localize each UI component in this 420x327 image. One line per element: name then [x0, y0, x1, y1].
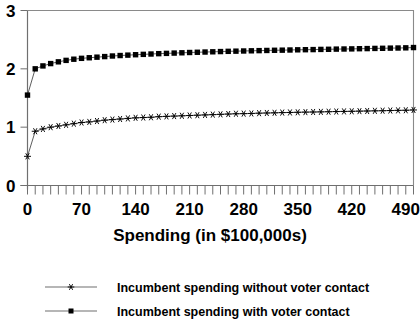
y-axis-tick-label: 2	[6, 60, 15, 79]
data-point-marker	[218, 49, 223, 54]
data-point-marker	[171, 50, 176, 55]
line-chart: 0123 070140210280350420490 Spending (in …	[0, 0, 420, 327]
data-point-marker	[110, 53, 115, 58]
data-point-marker	[303, 47, 308, 52]
data-point-marker	[334, 46, 339, 51]
data-point-marker	[156, 51, 161, 56]
data-point-marker	[125, 52, 130, 57]
data-point-marker	[63, 58, 68, 63]
data-point-marker	[364, 46, 369, 51]
data-point-marker	[33, 66, 38, 71]
data-point-marker	[388, 45, 393, 50]
data-point-marker	[69, 309, 74, 314]
x-axis-tick-label: 210	[175, 200, 203, 219]
data-point-marker	[25, 92, 30, 97]
y-axis-tick-label: 3	[6, 2, 15, 21]
data-point-marker	[272, 48, 277, 53]
chart-figure: 0123 070140210280350420490 Spending (in …	[0, 0, 420, 327]
data-point-marker	[56, 59, 61, 64]
data-point-marker	[71, 57, 76, 62]
data-point-marker	[318, 47, 323, 52]
data-point-marker	[380, 46, 385, 51]
data-point-marker	[133, 52, 138, 57]
data-point-marker	[280, 47, 285, 52]
x-axis-tick-label: 0	[23, 200, 32, 219]
y-axis-tick-label: 0	[6, 177, 15, 196]
data-point-marker	[202, 49, 207, 54]
data-point-marker	[141, 52, 146, 57]
data-point-marker	[195, 50, 200, 55]
data-point-marker	[357, 46, 362, 51]
data-point-marker	[87, 55, 92, 60]
data-point-marker	[117, 53, 122, 58]
data-point-marker	[102, 54, 107, 59]
data-point-marker	[295, 47, 300, 52]
data-point-marker	[256, 48, 261, 53]
x-axis-tick-label: 350	[284, 200, 312, 219]
x-axis-tick-label: 490	[392, 200, 420, 219]
legend-label: Incumbent spending without voter contact	[117, 281, 370, 295]
x-axis-tick-label: 140	[121, 200, 149, 219]
data-point-marker	[326, 47, 331, 52]
data-point-marker	[210, 49, 215, 54]
data-point-marker	[233, 48, 238, 53]
data-point-marker	[403, 45, 408, 50]
data-point-marker	[40, 63, 45, 68]
data-point-marker	[241, 48, 246, 53]
data-point-marker	[349, 46, 354, 51]
data-point-marker	[264, 48, 269, 53]
data-point-marker	[179, 50, 184, 55]
data-point-marker	[372, 46, 377, 51]
data-point-marker	[287, 47, 292, 52]
data-point-marker	[79, 56, 84, 61]
x-axis-tick-label: 70	[72, 200, 91, 219]
x-axis-tick-label: 280	[229, 200, 257, 219]
data-point-marker	[164, 51, 169, 56]
data-point-marker	[249, 48, 254, 53]
data-point-marker	[48, 61, 53, 66]
x-axis-title: Spending (in $100,000s)	[113, 226, 307, 245]
data-point-marker	[94, 54, 99, 59]
x-axis-tick-label: 420	[338, 200, 366, 219]
y-axis-tick-label: 1	[6, 118, 15, 137]
data-point-marker	[310, 47, 315, 52]
data-point-marker	[226, 49, 231, 54]
legend-label: Incumbent spending with voter contact	[117, 305, 350, 319]
data-point-marker	[187, 50, 192, 55]
data-point-marker	[341, 46, 346, 51]
data-point-marker	[411, 45, 416, 50]
data-point-marker	[148, 51, 153, 56]
data-point-marker	[395, 45, 400, 50]
